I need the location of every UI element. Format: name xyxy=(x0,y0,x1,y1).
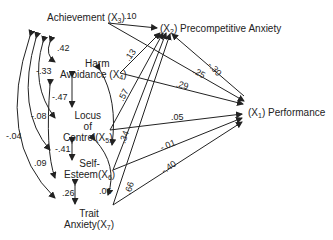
corr-x5-x6: -.41 xyxy=(55,144,71,154)
coef-x3-x2: .10 xyxy=(124,11,137,21)
corr-x5-x7: .06 xyxy=(99,186,112,196)
node-locus-of-control: Locus of Control(X5) xyxy=(63,110,113,146)
corr-x3-x5: -.33 xyxy=(36,66,52,76)
corr-x4-x5: -.47 xyxy=(52,92,68,102)
corr-x3-x6: -.08 xyxy=(31,111,47,121)
node-harm-avoidance: Harm Avoidance (X4) xyxy=(60,58,127,83)
corr-x4-x7: .09 xyxy=(34,158,47,168)
path-x6-x1 xyxy=(113,118,242,170)
corr-x6-x7: .26 xyxy=(62,188,75,198)
node-self-esteem: Self- Esteem(X6) xyxy=(64,158,115,183)
corr-x3-x7: -.04 xyxy=(6,131,22,141)
node-achievement: Achievement (X3) xyxy=(47,12,125,26)
node-precompetitive-anxiety: (X2) Precompetitive Anxiety xyxy=(160,23,281,37)
corr-x3-x4: .42 xyxy=(57,43,70,53)
coef-x5-x1: .05 xyxy=(171,112,184,122)
node-performance: (X1) Performance xyxy=(248,107,325,121)
node-trait-anxiety: Trait Anxiety(X7) xyxy=(64,208,114,233)
